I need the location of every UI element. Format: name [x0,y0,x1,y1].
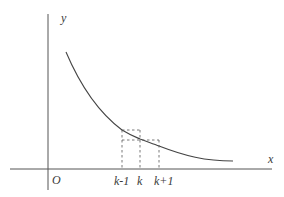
dashed-rectangle-left [122,130,140,169]
origin-label: O [52,173,61,187]
tick-label-k-plus-1: k+1 [154,174,173,188]
decreasing-curve [66,52,233,161]
diagram-canvas: y x O k-1 k k+1 [0,0,284,197]
y-axis-label: y [60,11,67,25]
tick-label-k-minus-1: k-1 [114,174,129,188]
x-axis-label: x [267,152,274,166]
tick-label-k: k [137,174,143,188]
